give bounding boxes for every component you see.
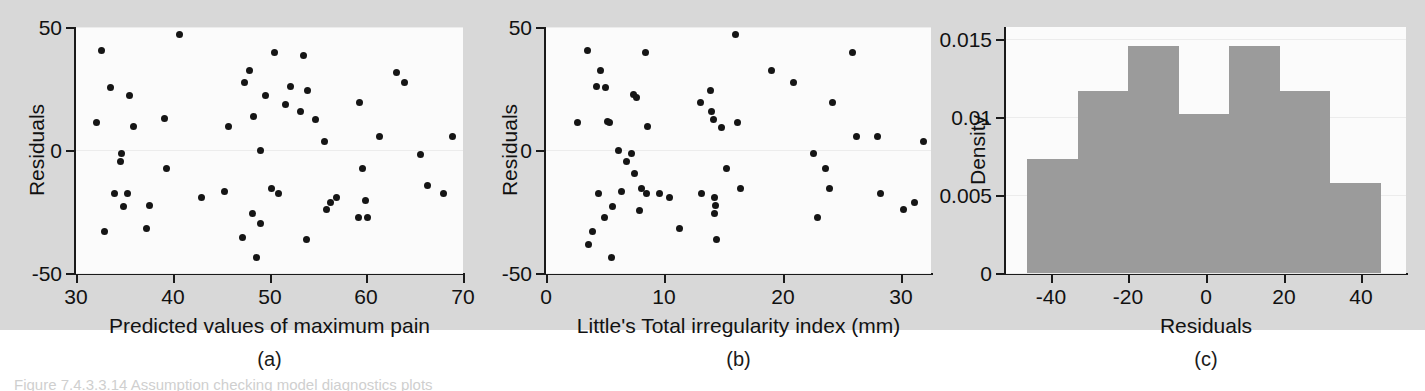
scatter-point xyxy=(615,147,622,154)
histogram-bar xyxy=(1280,91,1330,273)
scatter-point xyxy=(768,67,775,74)
y-tick-label: -50 xyxy=(502,263,532,284)
scatter-point xyxy=(826,185,833,192)
scatter-point xyxy=(221,188,228,195)
x-tick-mark xyxy=(76,275,78,283)
scatter-point xyxy=(300,52,307,59)
scatter-point xyxy=(287,83,294,90)
x-tick-mark xyxy=(901,275,903,283)
scatter-point xyxy=(698,190,705,197)
x-tick-mark xyxy=(1128,275,1130,283)
x-tick-label: 20 xyxy=(771,286,794,307)
gridline-horizontal xyxy=(76,273,463,274)
scatter-point xyxy=(117,158,124,165)
scatter-point xyxy=(723,165,730,172)
scatter-point xyxy=(275,190,282,197)
scatter-point xyxy=(323,206,330,213)
scatter-point xyxy=(829,99,836,106)
scatter-point xyxy=(257,147,264,154)
x-tick-mark xyxy=(783,275,785,283)
scatter-point xyxy=(268,185,275,192)
scatter-point xyxy=(712,202,719,209)
scatter-point xyxy=(176,31,183,38)
panel-label-a: (a) xyxy=(257,348,281,371)
x-tick-mark xyxy=(664,275,666,283)
scatter-point xyxy=(130,123,137,130)
panel-label-c: (c) xyxy=(1194,348,1217,371)
scatter-point xyxy=(424,182,431,189)
panel-a-x-axis-title: Predicted values of maximum pain xyxy=(109,315,430,336)
scatter-point xyxy=(364,214,371,221)
histogram-bar xyxy=(1179,114,1229,273)
y-tick-mark xyxy=(536,27,544,29)
panel-b-scatter-irregularity-vs-residuals: 0102030 -50050 Little's Total irregulari… xyxy=(475,0,945,330)
y-tick-label: 50 xyxy=(509,17,532,38)
gridline-horizontal xyxy=(76,27,463,28)
panel-c-y-axis-title: Density xyxy=(967,115,988,185)
scatter-point xyxy=(814,214,821,221)
scatter-point xyxy=(697,99,704,106)
scatter-point xyxy=(321,138,328,145)
y-tick-label: 0 xyxy=(980,263,992,284)
panel-a-scatter-predicted-vs-residuals: 3040506070 -50050 Predicted values of ma… xyxy=(0,0,475,330)
y-tick-label: 0 xyxy=(50,140,62,161)
gridline-horizontal xyxy=(546,150,931,151)
gridline-horizontal xyxy=(546,27,931,28)
scatter-point xyxy=(356,99,363,106)
x-tick-mark xyxy=(1284,275,1286,283)
histogram-bar xyxy=(1229,46,1279,273)
scatter-point xyxy=(790,79,797,86)
x-tick-mark xyxy=(546,275,548,283)
y-tick-label: 0 xyxy=(520,140,532,161)
y-tick-mark xyxy=(996,39,1004,41)
histogram-bar xyxy=(1078,91,1128,273)
x-tick-label: 70 xyxy=(451,286,474,307)
y-tick-mark xyxy=(536,273,544,275)
panel-a-y-axis xyxy=(74,27,76,275)
scatter-point xyxy=(449,133,456,140)
scatter-point xyxy=(822,165,829,172)
histogram-bar xyxy=(1330,183,1380,273)
x-tick-label: 30 xyxy=(64,286,87,307)
x-tick-label: 30 xyxy=(889,286,912,307)
x-tick-label: 40 xyxy=(1349,286,1372,307)
x-tick-label: 50 xyxy=(258,286,281,307)
y-tick-label: -50 xyxy=(32,263,62,284)
y-tick-mark xyxy=(996,117,1004,119)
x-tick-label: -40 xyxy=(1036,286,1066,307)
scatter-point xyxy=(636,207,643,214)
gridline-horizontal xyxy=(76,150,463,151)
scatter-point xyxy=(359,165,366,172)
scatter-point xyxy=(628,150,635,157)
figure-container: 3040506070 -50050 Predicted values of ma… xyxy=(0,0,1425,391)
scatter-point xyxy=(111,190,118,197)
panel-a-y-axis-title: Residuals xyxy=(26,104,47,196)
y-tick-label: 50 xyxy=(39,17,62,38)
gridline-horizontal xyxy=(1006,39,1406,40)
y-tick-mark xyxy=(66,273,74,275)
scatter-point xyxy=(609,203,616,210)
y-tick-label: 0.015 xyxy=(939,29,992,50)
y-tick-mark xyxy=(536,150,544,152)
x-tick-label: 0 xyxy=(1200,286,1212,307)
panel-b-y-axis-title: Residuals xyxy=(499,104,520,196)
y-tick-label: 0.005 xyxy=(939,185,992,206)
scatter-point xyxy=(246,67,253,74)
scatter-point xyxy=(161,115,168,122)
panel-b-y-axis xyxy=(544,27,546,275)
scatter-point xyxy=(595,190,602,197)
scatter-point xyxy=(710,116,717,123)
scatter-point xyxy=(608,254,615,261)
scatter-point xyxy=(633,94,640,101)
x-tick-mark xyxy=(463,275,465,283)
scatter-point xyxy=(589,228,596,235)
y-tick-mark xyxy=(996,195,1004,197)
scatter-point xyxy=(877,190,884,197)
scatter-point xyxy=(146,202,153,209)
x-tick-label: 40 xyxy=(161,286,184,307)
scatter-point xyxy=(597,67,604,74)
scatter-point xyxy=(737,185,744,192)
scatter-point xyxy=(101,228,108,235)
scatter-point xyxy=(656,190,663,197)
x-tick-mark xyxy=(1361,275,1363,283)
